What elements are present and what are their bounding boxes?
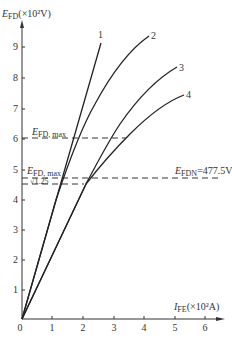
y-axis-arrow-icon: [20, 20, 24, 28]
efd-max-frac-denominator: √1.25: [30, 177, 48, 186]
y-tick-label: 7: [13, 103, 18, 114]
x-tick-labels: 0 1 2 3 4 5 6: [18, 322, 208, 333]
x-axis-arrow-icon: [216, 317, 225, 321]
curve-label-4: 4: [186, 89, 191, 100]
chart-canvas: 1 2 3 4 5 6 7 8 9 0 1 2 3 4 5 6 EFD(×10²…: [0, 0, 232, 342]
efdn-label: EFDN=477.5V: [174, 165, 232, 178]
x-tick-label: 1: [50, 322, 55, 333]
y-tick-label: 2: [13, 254, 18, 265]
y-tick-label: 5: [13, 164, 18, 175]
y-tick-label: 4: [13, 194, 18, 205]
x-tick-label: 3: [112, 322, 117, 333]
curve-label-2: 2: [151, 30, 156, 41]
y-tick-label: 1: [13, 284, 18, 295]
curve-4: [22, 95, 184, 319]
curve-label-3: 3: [179, 62, 184, 73]
x-tick-label: 4: [142, 322, 147, 333]
y-axis-title: EFD(×10²V): [1, 8, 51, 21]
x-tick-label: 5: [173, 322, 178, 333]
y-tick-label: 8: [13, 72, 18, 83]
x-tick-label: 0: [18, 322, 23, 333]
x-axis-title: IFE(×10²A): [173, 301, 219, 314]
y-tick-labels: 1 2 3 4 5 6 7 8 9: [13, 41, 18, 295]
curve-3: [22, 67, 177, 319]
efd-max-label: EFD, max: [31, 126, 66, 139]
y-tick-label: 3: [13, 224, 18, 235]
x-tick-label: 6: [203, 322, 208, 333]
curve-label-1: 1: [98, 29, 103, 40]
x-tick-label: 2: [81, 322, 86, 333]
y-tick-label: 6: [13, 133, 18, 144]
y-tick-label: 9: [13, 41, 18, 52]
